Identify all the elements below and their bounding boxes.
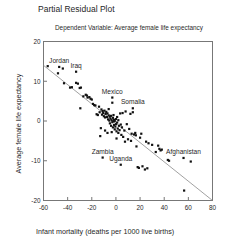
data-point — [112, 117, 114, 119]
data-point — [123, 129, 125, 131]
data-point — [124, 141, 126, 143]
data-point — [57, 72, 59, 74]
x-tick-label: 0 — [114, 204, 118, 211]
data-point — [132, 111, 134, 113]
data-point — [116, 121, 118, 123]
data-point — [99, 135, 101, 137]
data-point — [139, 137, 141, 139]
data-point — [109, 122, 111, 124]
data-point — [161, 149, 163, 151]
data-point — [106, 112, 108, 114]
data-point — [108, 120, 110, 122]
x-tick-label: 40 — [161, 204, 169, 211]
data-point — [124, 110, 126, 112]
data-point — [144, 168, 146, 170]
data-point — [120, 123, 122, 125]
y-tick-label: 0 — [37, 117, 41, 124]
data-point — [115, 137, 117, 139]
data-point — [121, 112, 123, 114]
data-point — [122, 136, 124, 138]
data-point — [111, 131, 113, 133]
data-point — [128, 128, 130, 130]
data-point — [182, 157, 184, 159]
x-tick-label: 80 — [209, 204, 217, 211]
data-point — [108, 108, 110, 110]
data-point — [80, 87, 82, 89]
data-point — [110, 115, 112, 117]
data-point — [58, 66, 60, 68]
data-point — [121, 126, 123, 128]
data-point — [120, 134, 122, 136]
x-tick-label: 60 — [185, 204, 193, 211]
data-point — [102, 112, 104, 114]
data-point — [114, 128, 116, 130]
x-tick-label: 20 — [137, 204, 145, 211]
annotation-label: Iraq — [70, 62, 82, 70]
x-axis-ticks: -60-40-20020406080 — [39, 197, 217, 211]
data-point — [94, 104, 96, 106]
data-point — [47, 65, 49, 67]
data-point — [135, 145, 137, 147]
data-point — [190, 160, 192, 162]
data-point — [131, 133, 133, 135]
data-point — [86, 94, 88, 96]
data-point — [135, 134, 137, 136]
data-point — [98, 106, 100, 108]
annotation-label: Mexico — [102, 88, 123, 95]
data-point — [183, 189, 185, 191]
y-tick-label: -10 — [31, 157, 41, 164]
data-point — [112, 126, 114, 128]
data-point — [77, 83, 79, 85]
data-point — [114, 120, 116, 122]
data-point — [63, 82, 65, 84]
data-point — [130, 140, 132, 142]
data-point — [119, 112, 121, 114]
annotation-label: Zambia — [92, 148, 114, 155]
data-point — [82, 95, 84, 97]
data-point — [116, 116, 118, 118]
data-point — [117, 119, 119, 121]
data-point — [151, 144, 153, 146]
data-point — [111, 102, 113, 104]
axis-frame — [44, 42, 213, 201]
data-point — [99, 111, 101, 113]
data-point — [126, 123, 128, 125]
y-tick-label: -20 — [31, 197, 41, 204]
annotation-label: Afghanistan — [166, 148, 201, 156]
scatter-points — [47, 65, 192, 192]
annotation-label: Jordan — [49, 57, 69, 64]
data-point — [168, 160, 170, 162]
plot-canvas: -60-40-20020406080 20100-10-20 JordanIra… — [0, 0, 233, 247]
annotation-label: Somalia — [121, 98, 145, 105]
data-point — [104, 129, 106, 131]
data-point — [147, 142, 149, 144]
data-point — [134, 132, 136, 134]
data-point — [112, 114, 114, 116]
y-tick-label: 10 — [33, 78, 41, 85]
x-tick-label: -20 — [87, 204, 97, 211]
data-point — [129, 113, 131, 115]
x-tick-label: -40 — [63, 204, 73, 211]
y-axis-ticks: 20100-10-20 — [31, 38, 47, 204]
data-point — [114, 125, 116, 127]
annotation-label: Uganda — [109, 155, 132, 163]
data-point — [145, 141, 147, 143]
data-point — [115, 118, 117, 120]
data-point — [117, 132, 119, 134]
data-point — [118, 129, 120, 131]
data-point — [97, 114, 99, 116]
data-point — [155, 151, 157, 153]
data-point — [79, 107, 81, 109]
data-point — [71, 86, 73, 88]
data-point — [75, 71, 77, 73]
x-tick-label: -60 — [39, 204, 49, 211]
data-point — [157, 145, 159, 147]
data-point — [102, 156, 104, 158]
data-point — [62, 67, 64, 69]
data-point — [106, 132, 108, 134]
data-point — [141, 165, 143, 167]
data-point — [132, 107, 134, 109]
data-point — [138, 167, 140, 169]
regression-line — [44, 65, 213, 200]
partial-residual-plot-figure: Partial Residual Plot Dependent Variable… — [0, 0, 233, 247]
